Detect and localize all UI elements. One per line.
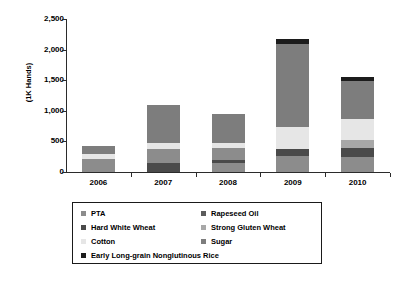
bar-segment[interactable] bbox=[276, 149, 309, 156]
bar-segment[interactable] bbox=[341, 140, 374, 147]
legend-label: Rapeseed Oil bbox=[211, 209, 259, 218]
legend-item[interactable]: Strong Gluten Wheat bbox=[201, 221, 286, 233]
x-tick-mark bbox=[131, 173, 132, 177]
legend-swatch-icon bbox=[81, 225, 86, 230]
legend-swatch-icon bbox=[201, 225, 206, 230]
legend-item[interactable]: Hard White Wheat bbox=[81, 221, 155, 233]
y-tick-label: 0 bbox=[14, 168, 64, 176]
bar-segment[interactable] bbox=[147, 149, 180, 163]
bar-stack bbox=[82, 146, 115, 172]
bar-segment[interactable] bbox=[341, 148, 374, 157]
y-tick-label: 2,000 bbox=[14, 46, 64, 54]
bar-segment[interactable] bbox=[212, 163, 245, 172]
y-axis-tick-labels: 05001,0001,5002,0002,500 bbox=[14, 14, 64, 174]
bar-segment[interactable] bbox=[212, 148, 245, 161]
x-tick-mark bbox=[390, 173, 391, 177]
bar-stack bbox=[276, 39, 309, 172]
x-tick-mark bbox=[196, 173, 197, 177]
bar-group[interactable] bbox=[82, 19, 115, 172]
legend-label: Strong Gluten Wheat bbox=[211, 223, 286, 232]
bar-group[interactable] bbox=[276, 19, 309, 172]
x-tick-label: 2007 bbox=[133, 178, 193, 188]
bar-segment[interactable] bbox=[341, 119, 374, 140]
legend-item[interactable]: PTA bbox=[81, 207, 105, 219]
legend-label: Early Long-grain Nonglutinous Rice bbox=[91, 251, 219, 260]
bar-segment[interactable] bbox=[341, 81, 374, 120]
bar-group[interactable] bbox=[147, 19, 180, 172]
y-tick-label: 500 bbox=[14, 137, 64, 145]
bar-group[interactable] bbox=[341, 19, 374, 172]
legend-swatch-icon bbox=[201, 211, 206, 216]
legend-label: PTA bbox=[91, 209, 105, 218]
legend-swatch-icon bbox=[81, 239, 86, 244]
legend: PTARapeseed OilHard White WheatStrong Gl… bbox=[72, 202, 322, 264]
x-axis-line bbox=[66, 172, 390, 173]
x-tick-label: 2006 bbox=[68, 178, 128, 188]
legend-item[interactable]: Sugar bbox=[201, 235, 232, 247]
x-tick-mark bbox=[325, 173, 326, 177]
y-tick-mark bbox=[62, 172, 66, 173]
y-tick-label: 2,500 bbox=[14, 15, 64, 23]
bar-segment[interactable] bbox=[82, 159, 115, 172]
x-axis-category-labels: 20062007200820092010 bbox=[66, 178, 390, 192]
bar-stack bbox=[341, 77, 374, 172]
y-tick-label: 1,500 bbox=[14, 76, 64, 84]
bar-segment[interactable] bbox=[276, 156, 309, 172]
bar-segment[interactable] bbox=[82, 146, 115, 155]
bar-segment[interactable] bbox=[147, 105, 180, 143]
bar-segment[interactable] bbox=[276, 44, 309, 127]
stacked-bar-chart: (1K Hands) 05001,0001,5002,0002,500 2006… bbox=[0, 0, 397, 282]
bar-segment[interactable] bbox=[212, 114, 245, 143]
x-tick-mark bbox=[260, 173, 261, 177]
bar-segment[interactable] bbox=[276, 127, 309, 150]
x-tick-label: 2009 bbox=[263, 178, 323, 188]
legend-label: Cotton bbox=[91, 237, 115, 246]
bar-segment[interactable] bbox=[147, 163, 180, 172]
x-tick-label: 2008 bbox=[198, 178, 258, 188]
legend-swatch-icon bbox=[81, 253, 86, 258]
legend-label: Sugar bbox=[211, 237, 232, 246]
bar-group[interactable] bbox=[212, 19, 245, 172]
legend-item[interactable]: Cotton bbox=[81, 235, 115, 247]
legend-swatch-icon bbox=[201, 239, 206, 244]
legend-swatch-icon bbox=[81, 211, 86, 216]
legend-label: Hard White Wheat bbox=[91, 223, 155, 232]
bar-stack bbox=[212, 114, 245, 172]
legend-item[interactable]: Early Long-grain Nonglutinous Rice bbox=[81, 249, 219, 261]
x-tick-label: 2010 bbox=[328, 178, 388, 188]
bar-segment[interactable] bbox=[341, 157, 374, 172]
y-tick-label: 1,000 bbox=[14, 107, 64, 115]
bars-layer bbox=[66, 19, 390, 172]
legend-item[interactable]: Rapeseed Oil bbox=[201, 207, 259, 219]
plot-area: (1K Hands) 05001,0001,5002,0002,500 2006… bbox=[0, 0, 397, 192]
bar-stack bbox=[147, 105, 180, 172]
